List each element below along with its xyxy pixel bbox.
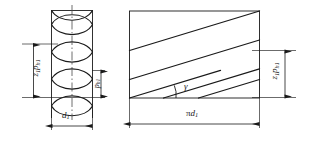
label-total-lead-right: z1ph1 [270,51,280,91]
label-diameter-d1-sub: 1 [67,113,70,120]
label-lead-ph1: ph1 [93,70,102,96]
label-lead-angle-gamma: γ [184,82,188,91]
technical-drawing-figure: z1ph1 ph1 d1 γ πd1 z1ph1 [0,0,311,143]
figure-vector-canvas [0,0,311,143]
label-total-lead-left-z: z [30,73,40,77]
label-lead-ph1-sub: h1 [95,79,101,85]
lead-angle-arc [174,85,176,98]
label-lead-ph1-p: p [92,84,101,88]
label-total-lead-right-z-sub: 1 [273,73,280,76]
label-total-lead-left-z-sub: 1 [34,70,41,73]
label-total-lead-left-p-sub: h1 [34,59,41,65]
label-total-lead-left: z1ph1 [31,48,41,88]
label-total-lead-right-p: p [269,68,279,73]
label-diameter-d1: d1 [62,111,70,121]
development-helix-lines [130,11,260,98]
label-total-lead-right-z: z [269,76,279,80]
label-development-width: πd1 [186,109,198,119]
label-total-lead-right-p-sub: h1 [273,62,280,68]
label-development-width-sub: 1 [195,111,198,118]
label-total-lead-left-p: p [30,65,40,70]
